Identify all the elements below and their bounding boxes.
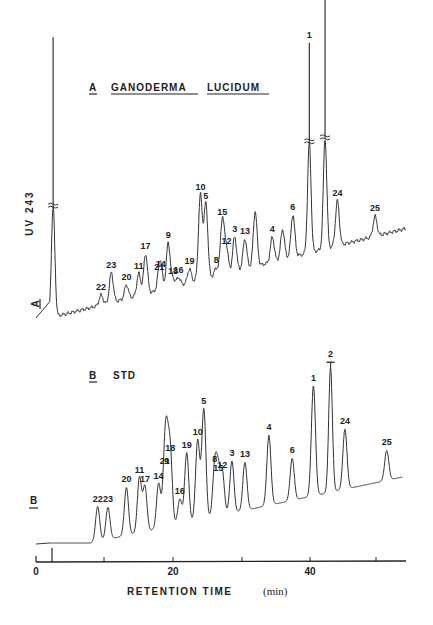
chromatogram-trace-b bbox=[36, 362, 402, 544]
panel-b-title: B STD bbox=[89, 370, 136, 382]
peak-label: 9 bbox=[166, 230, 171, 240]
x-axis-title: RETENTION TIME bbox=[127, 586, 232, 597]
peak-label: 25 bbox=[370, 203, 380, 213]
peak-label: 24 bbox=[332, 188, 342, 198]
peak-label: 22 bbox=[96, 282, 106, 292]
panel-b-marker: B bbox=[29, 495, 38, 508]
peak-label: 5 bbox=[201, 396, 206, 406]
peak-label: 8 bbox=[214, 255, 219, 265]
panel-b-title-word: STD bbox=[113, 370, 136, 381]
y-axis-label: UV 243 bbox=[24, 190, 35, 235]
peak-label: 19 bbox=[184, 256, 194, 266]
peak-label: 23 bbox=[106, 260, 116, 270]
peak-label: 17 bbox=[141, 241, 151, 251]
x-axis: 0 20 40 RETENTION TIME (min) bbox=[33, 548, 406, 598]
chromatogram-trace-a bbox=[36, 0, 406, 318]
peak-label: 16 bbox=[175, 486, 185, 496]
peak-label: 16 bbox=[173, 265, 183, 275]
peak-label: 1 bbox=[307, 30, 312, 40]
peak-label: 13 bbox=[240, 449, 250, 459]
svg-text:B: B bbox=[30, 495, 37, 506]
peak-label: 2 bbox=[328, 349, 333, 359]
panel-a-title-word-2: LUCIDUM bbox=[207, 82, 260, 93]
peak-label: 25 bbox=[382, 437, 392, 447]
peak-label: 18 bbox=[165, 443, 175, 453]
peak-labels-b: 2223201117142191816191058151231346122425 bbox=[93, 349, 392, 504]
peak-label: 24 bbox=[340, 416, 350, 426]
chromatogram-figure: 2223201117211491816191058151231346122425… bbox=[0, 0, 433, 625]
panel-a-title: A GANODERMA LUCIDUM bbox=[89, 82, 269, 94]
panel-b-letter: B bbox=[89, 370, 96, 381]
x-axis-unit: (min) bbox=[263, 585, 288, 598]
peak-label: 1 bbox=[311, 373, 316, 383]
peak-label: 22 bbox=[93, 494, 103, 504]
peak-label: 12 bbox=[221, 236, 231, 246]
peak-label: 4 bbox=[270, 224, 275, 234]
peak-label: 9 bbox=[164, 456, 169, 466]
panel-a-title-word-1: GANODERMA bbox=[111, 82, 187, 93]
peak-label: 14 bbox=[156, 259, 166, 269]
peak-label: 6 bbox=[290, 445, 295, 455]
panel-a-letter: A bbox=[89, 82, 96, 93]
x-tick-40: 40 bbox=[304, 566, 316, 577]
peak-label: 12 bbox=[217, 460, 227, 470]
peak-label: 20 bbox=[121, 474, 131, 484]
peak-label: 14 bbox=[154, 471, 164, 481]
peak-label: 13 bbox=[240, 226, 250, 236]
peak-label: 4 bbox=[266, 422, 271, 432]
peak-label: 5 bbox=[203, 191, 208, 201]
peak-label: 19 bbox=[182, 440, 192, 450]
x-tick-20: 20 bbox=[167, 566, 179, 577]
panel-a-marker: A bbox=[30, 299, 41, 309]
peak-label: 11 bbox=[134, 261, 144, 271]
x-tick-0: 0 bbox=[33, 566, 39, 577]
peak-label: 3 bbox=[232, 224, 237, 234]
peak-labels-a: 2223201117211491816191058151231346122425 bbox=[96, 0, 380, 292]
peak-label: 6 bbox=[290, 202, 295, 212]
peak-label: 23 bbox=[103, 494, 113, 504]
peak-label: 20 bbox=[121, 272, 131, 282]
peak-label: 3 bbox=[229, 448, 234, 458]
peak-label: 17 bbox=[140, 474, 150, 484]
peak-label: 10 bbox=[193, 427, 203, 437]
peak-label: 15 bbox=[217, 207, 227, 217]
svg-text:A: A bbox=[30, 300, 41, 307]
